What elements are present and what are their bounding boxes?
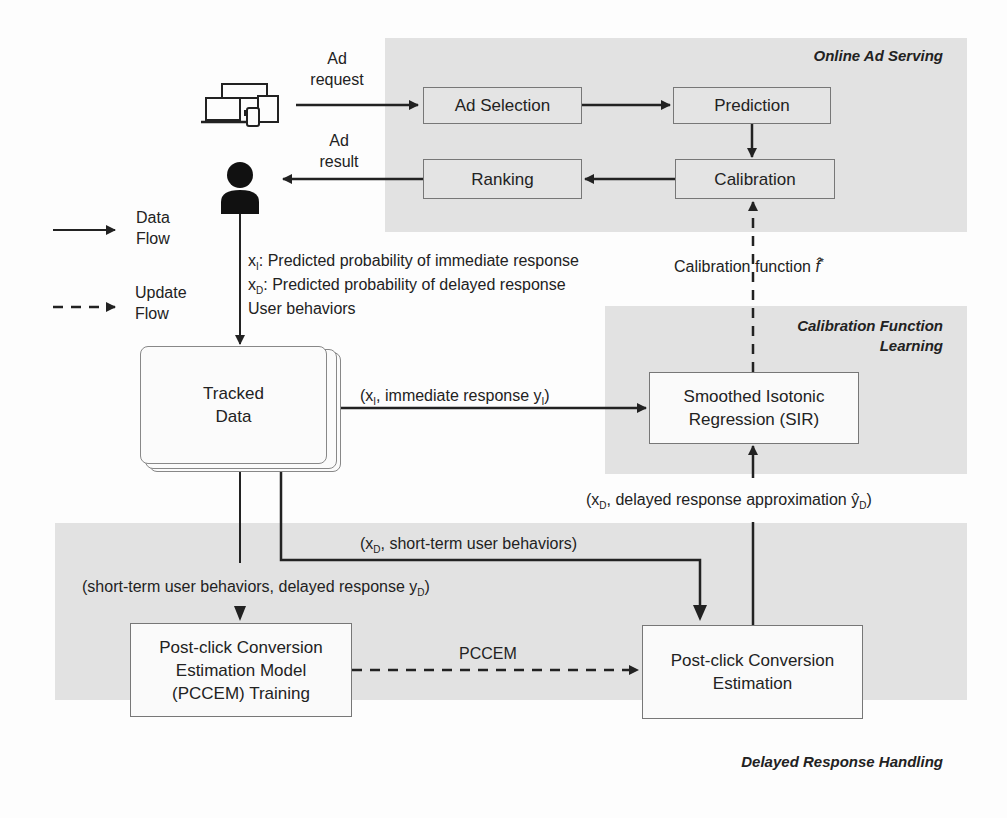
legend-update-flow-line2: Flow [135, 303, 187, 324]
devices-icon [200, 82, 282, 128]
calibration-function-text: Calibration function [674, 258, 811, 275]
legend-update-flow-line1: Update [135, 282, 187, 303]
user-behaviors-label: User behaviors [248, 298, 356, 319]
pccem-training-box: Post-click Conversion Estimation Model (… [130, 623, 352, 717]
immediate-response-text: immediate response [385, 387, 529, 404]
ad-request-label: Ad request [302, 48, 372, 90]
delayed-approximation-text: delayed response approximation [615, 491, 846, 508]
pccem-training-line1: Post-click Conversion [159, 636, 322, 659]
short-term-delayed-text: (short-term user behaviors, delayed resp… [82, 578, 405, 595]
sir-box: Smoothed Isotonic Regression (SIR) [649, 372, 859, 444]
sir-line1: Smoothed Isotonic [684, 385, 825, 408]
legend-data-flow-line1: Data [136, 207, 170, 228]
ad-request-line2: request [302, 69, 372, 90]
calibration-function-label: Calibration function f̂* [674, 252, 824, 277]
sir-line2: Regression (SIR) [689, 408, 819, 431]
post-click-conversion-estimation-box: Post-click Conversion Estimation [642, 625, 863, 719]
legend-data-flow: Data Flow [136, 207, 170, 249]
user-icon [219, 160, 261, 214]
ad-selection-box: Ad Selection [423, 87, 582, 124]
pccem-training-line3: (PCCEM) Training [172, 682, 310, 705]
legend-update-flow: Update Flow [135, 282, 187, 324]
prediction-box: Prediction [673, 87, 831, 124]
pce-line1: Post-click Conversion [671, 649, 834, 672]
ad-result-label: Ad result [304, 130, 374, 172]
pccem-label: PCCEM [459, 643, 517, 664]
tracked-data-box: Tracked Data [140, 346, 327, 464]
ad-request-line1: Ad [302, 48, 372, 69]
xd-description-text: Predicted probability of delayed respons… [272, 276, 566, 293]
legend-data-flow-line2: Flow [136, 228, 170, 249]
pce-line2: Estimation [713, 672, 792, 695]
short-term-delayed-label: (short-term user behaviors, delayed resp… [82, 576, 430, 603]
delayed-approximation-label: (xD, delayed response approximation ŷD) [586, 489, 872, 516]
immediate-response-pair-label: (xI, immediate response yI) [360, 385, 550, 412]
ranking-box: Ranking [423, 159, 582, 199]
calibration-box: Calibration [675, 159, 835, 199]
pccem-training-line2: Estimation Model [176, 659, 306, 682]
tracked-data-line1: Tracked [203, 382, 264, 405]
ad-result-line1: Ad [304, 130, 374, 151]
xi-description-text: Predicted probability of immediate respo… [268, 252, 579, 269]
ad-result-line2: result [304, 151, 374, 172]
short-term-pair-text: short-term user behaviors [389, 535, 571, 552]
tracked-data-line2: Data [216, 405, 252, 428]
short-term-pair-label: (xD, short-term user behaviors) [360, 533, 577, 560]
